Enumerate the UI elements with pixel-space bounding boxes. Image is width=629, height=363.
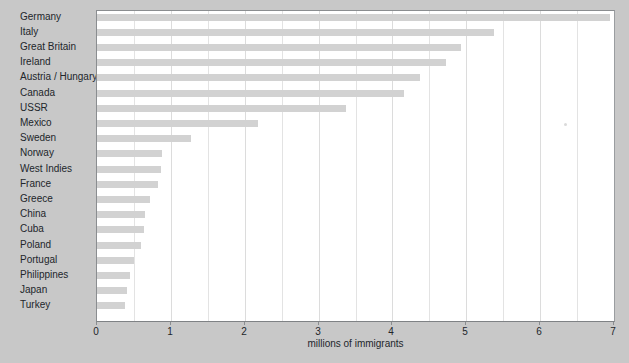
bar-china [97, 211, 145, 218]
bar-ireland [97, 59, 446, 66]
x-tick-label-5: 5 [450, 326, 480, 337]
x-tick-label-6: 6 [524, 326, 554, 337]
plot-area [96, 10, 615, 322]
bar-poland [97, 242, 141, 249]
y-axis-label-ireland: Ireland [20, 54, 92, 69]
bar-canada [97, 90, 404, 97]
y-axis-label-austria-hungary: Austria / Hungary [20, 69, 92, 84]
y-axis-label-philippines: Philippines [20, 267, 92, 282]
x-tick-mark [613, 322, 614, 325]
y-axis-label-turkey: Turkey [20, 297, 92, 312]
x-tick-mark [465, 322, 466, 325]
bar-series [97, 11, 614, 321]
y-axis-label-germany: Germany [20, 9, 92, 24]
x-tick-mark [539, 322, 540, 325]
bar-great-britain [97, 44, 461, 51]
bar-norway [97, 150, 162, 157]
bar-japan [97, 287, 127, 294]
y-axis-label-great-britain: Great Britain [20, 39, 92, 54]
bar-sweden [97, 135, 191, 142]
bar-turkey [97, 302, 125, 309]
y-axis-label-portugal: Portugal [20, 252, 92, 267]
bar-portugal [97, 257, 134, 264]
x-axis-label: millions of immigrants [96, 338, 615, 349]
bar-west-indies [97, 166, 161, 173]
chart-figure: GermanyItalyGreat BritainIrelandAustria … [0, 0, 629, 363]
x-tick-mark [391, 322, 392, 325]
x-tick-mark [96, 322, 97, 325]
x-tick-label-1: 1 [155, 326, 185, 337]
y-axis-label-greece: Greece [20, 191, 92, 206]
y-axis-label-cuba: Cuba [20, 221, 92, 236]
x-tick-mark [244, 322, 245, 325]
bar-italy [97, 29, 494, 36]
y-axis-label-west-indies: West Indies [20, 161, 92, 176]
y-axis-label-mexico: Mexico [20, 115, 92, 130]
x-tick-mark [170, 322, 171, 325]
x-tick-label-0: 0 [81, 326, 111, 337]
x-tick-label-3: 3 [303, 326, 333, 337]
x-tick-mark [318, 322, 319, 325]
bar-france [97, 181, 158, 188]
bar-ussr [97, 105, 346, 112]
y-axis-label-sweden: Sweden [20, 130, 92, 145]
bar-cuba [97, 226, 144, 233]
y-axis-label-france: France [20, 176, 92, 191]
speck-artifact [564, 123, 567, 126]
bar-germany [97, 14, 610, 21]
bar-greece [97, 196, 150, 203]
y-axis-label-canada: Canada [20, 85, 92, 100]
y-axis-label-japan: Japan [20, 282, 92, 297]
y-axis-category-labels: GermanyItalyGreat BritainIrelandAustria … [0, 10, 92, 320]
x-tick-label-7: 7 [598, 326, 628, 337]
y-axis-label-norway: Norway [20, 145, 92, 160]
bar-austria-hungary [97, 74, 420, 81]
y-axis-label-ussr: USSR [20, 100, 92, 115]
x-tick-label-4: 4 [376, 326, 406, 337]
x-tick-label-2: 2 [229, 326, 259, 337]
bar-mexico [97, 120, 258, 127]
bar-philippines [97, 272, 130, 279]
y-axis-label-italy: Italy [20, 24, 92, 39]
y-axis-label-china: China [20, 206, 92, 221]
chart-title [96, 0, 526, 2]
y-axis-label-poland: Poland [20, 237, 92, 252]
